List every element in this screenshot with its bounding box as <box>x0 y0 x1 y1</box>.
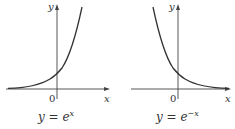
curve-exp-x <box>8 7 82 88</box>
caption-exponent: x <box>70 109 75 118</box>
caption-exp-x: y = ex <box>38 109 74 124</box>
x-axis-label: x <box>104 93 110 104</box>
caption-exponent: −x <box>188 109 199 118</box>
caption-base: y = e <box>156 110 188 124</box>
y-axis-label: y <box>168 1 175 12</box>
x-axis-label: x <box>225 93 231 104</box>
y-axis-label: y <box>47 1 54 12</box>
x-axis-arrow-icon <box>104 87 110 91</box>
y-axis-arrow-icon <box>55 4 59 10</box>
caption-exp-neg-x: y = e−x <box>156 109 199 124</box>
curve-exp-neg-x <box>153 7 229 88</box>
origin-label: 0 <box>170 93 176 104</box>
graph-exp-x: y x 0 <box>6 1 110 104</box>
graph-exp-neg-x: y x 0 <box>131 1 231 104</box>
y-axis-arrow-icon <box>176 4 180 10</box>
caption-base: y = e <box>38 110 70 124</box>
exponential-graphs: y x 0 y x 0 <box>0 0 235 129</box>
origin-label: 0 <box>49 93 55 104</box>
